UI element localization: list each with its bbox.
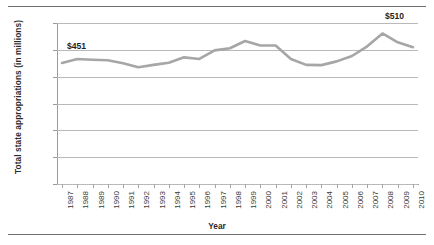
x-tick-label-1992: 1992	[142, 191, 151, 209]
x-tick-mark	[154, 184, 155, 188]
x-tick-mark	[62, 184, 63, 188]
x-tick-mark	[306, 184, 307, 188]
x-tick-mark	[199, 184, 200, 188]
x-tick-label-2001: 2001	[280, 191, 289, 209]
data-label-451: $451	[67, 41, 86, 51]
x-tick-label-1998: 1998	[234, 191, 243, 209]
x-tick-mark	[413, 184, 414, 188]
plot-area	[57, 23, 418, 184]
x-tick-label-2009: 2009	[402, 191, 411, 209]
x-tick-mark	[291, 184, 292, 188]
x-tick-label-2004: 2004	[325, 191, 334, 209]
x-tick-label-1997: 1997	[219, 191, 228, 209]
x-tick-mark	[169, 184, 170, 188]
x-tick-mark	[230, 184, 231, 188]
y-axis-title: Total state appropriations (in millions)	[13, 7, 23, 187]
x-tick-label-2007: 2007	[371, 191, 380, 209]
x-tick-label-1987: 1987	[66, 191, 75, 209]
x-tick-label-2005: 2005	[341, 191, 350, 209]
x-tick-mark	[382, 184, 383, 188]
x-tick-mark	[367, 184, 368, 188]
x-tick-mark	[337, 184, 338, 188]
x-tick-label-1995: 1995	[188, 191, 197, 209]
x-tick-mark	[108, 184, 109, 188]
x-tick-label-2010: 2010	[417, 191, 426, 209]
x-tick-label-1988: 1988	[81, 191, 90, 209]
x-tick-mark	[245, 184, 246, 188]
x-tick-mark	[93, 184, 94, 188]
x-tick-mark	[77, 184, 78, 188]
x-tick-label-2000: 2000	[264, 191, 273, 209]
x-axis-title: Year	[0, 221, 434, 231]
top-divider-rule	[8, 6, 426, 7]
x-tick-label-1999: 1999	[249, 191, 258, 209]
data-label-510: $510	[385, 11, 404, 21]
series-line-total-state-appropriations	[57, 23, 418, 184]
x-tick-mark	[184, 184, 185, 188]
x-tick-label-1996: 1996	[203, 191, 212, 209]
x-tick-label-1991: 1991	[127, 191, 136, 209]
x-tick-label-2008: 2008	[386, 191, 395, 209]
x-tick-label-2003: 2003	[310, 191, 319, 209]
x-tick-label-1989: 1989	[97, 191, 106, 209]
x-tick-mark	[260, 184, 261, 188]
chart-figure: Total state appropriations (in millions)…	[0, 0, 434, 245]
x-tick-mark	[123, 184, 124, 188]
gridline-xx	[57, 184, 418, 185]
x-tick-label-1990: 1990	[112, 191, 121, 209]
x-tick-mark	[215, 184, 216, 188]
x-tick-mark	[398, 184, 399, 188]
x-tick-mark	[276, 184, 277, 188]
x-tick-mark	[352, 184, 353, 188]
x-tick-label-2002: 2002	[295, 191, 304, 209]
x-tick-label-1993: 1993	[158, 191, 167, 209]
bottom-divider-rule	[8, 234, 426, 235]
x-tick-label-1994: 1994	[173, 191, 182, 209]
x-tick-label-2006: 2006	[356, 191, 365, 209]
x-tick-mark	[138, 184, 139, 188]
x-tick-mark	[321, 184, 322, 188]
